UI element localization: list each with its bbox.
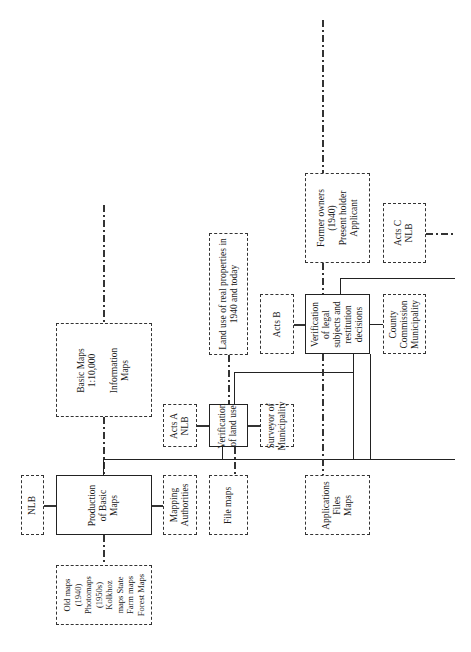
- node-mapping-authorities: Mapping Authorities: [163, 475, 197, 535]
- edge-legal-to-county: [370, 324, 383, 325]
- edge-oldmaps-to-production: [103, 535, 105, 565]
- edge-verif-land-to-legal: [234, 372, 353, 373]
- edge-upper-to-legal: [340, 278, 341, 294]
- node-county-commission: County Commission Municipality: [383, 294, 426, 354]
- edge-nlb-to-production: [44, 505, 56, 507]
- node-label: NLB: [27, 496, 38, 515]
- edge-verif-land-up: [234, 372, 235, 404]
- edge-actsB-to-legal: [294, 324, 305, 326]
- edge-verif-to-landuse: [228, 355, 230, 404]
- node-label: Old maps (1940) Photomaps (1950s) Kolkho…: [62, 574, 146, 616]
- edge-legal-to-former: [322, 263, 324, 294]
- edge-production-to-mapping: [152, 505, 163, 507]
- node-former-owners: Former owners (1940) Present holder Appl…: [305, 173, 370, 263]
- edge-production-to-main: [103, 459, 104, 475]
- node-label: Surveyor of Municipality: [266, 401, 288, 450]
- node-surveyor: Surveyor of Municipality: [260, 404, 294, 447]
- node-verification-land-use: Verification of land use: [209, 404, 248, 447]
- node-label: Former owners (1940) Present holder Appl…: [316, 189, 360, 247]
- node-label: Production of Basic Maps: [87, 484, 120, 526]
- node-land-use-properties: Land use of real properties in 1940 and …: [209, 233, 248, 355]
- edge-legal-down: [353, 354, 354, 460]
- edge-legal-right: [370, 354, 371, 460]
- node-production-basic-maps: Production of Basic Maps: [56, 475, 152, 535]
- node-file-maps: File maps: [209, 475, 248, 535]
- node-label: Acts B: [272, 311, 283, 337]
- node-acts-b: Acts B: [260, 294, 294, 354]
- node-label: Acts A NLB: [169, 412, 191, 438]
- node-nlb: NLB: [21, 475, 44, 535]
- node-label: Acts C NLB: [394, 220, 416, 246]
- edge-actsA-to-verif: [197, 425, 209, 427]
- node-verification-legal: Verification of legal subjects and resti…: [305, 294, 370, 354]
- node-old-maps: Old maps (1940) Photomaps (1950s) Kolkho…: [56, 565, 152, 625]
- node-acts-a: Acts A NLB: [163, 404, 197, 447]
- node-label: Verification of legal subjects and resti…: [310, 301, 365, 348]
- edge-verif-to-surveyor: [248, 425, 260, 427]
- node-label: Basic Maps 1:10,000 Information Maps: [76, 347, 131, 392]
- node-acts-c: Acts C NLB: [383, 203, 426, 263]
- node-label: File maps: [223, 486, 234, 523]
- edge-basic-maps-up: [103, 205, 105, 323]
- node-basic-maps: Basic Maps 1:10,000 Information Maps: [56, 323, 152, 417]
- main-horizontal-line: [103, 459, 455, 460]
- edge-former-up: [322, 20, 324, 173]
- node-label: Applications Files Maps: [321, 481, 354, 530]
- node-label: Mapping Authorities: [169, 484, 191, 527]
- edge-actsC-right: [426, 233, 455, 235]
- edge-file-maps-to-verif: [234, 447, 236, 475]
- edge-verif-land-to-main: [222, 447, 223, 460]
- node-label: Verification of land use: [218, 403, 240, 448]
- node-label: Land use of real properties in 1940 and …: [218, 238, 240, 350]
- node-applications: Applications Files Maps: [305, 475, 370, 535]
- upper-horizontal-line: [340, 278, 455, 279]
- node-label: County Commission Municipality: [388, 299, 421, 348]
- edge-applications-to-legal: [322, 354, 324, 475]
